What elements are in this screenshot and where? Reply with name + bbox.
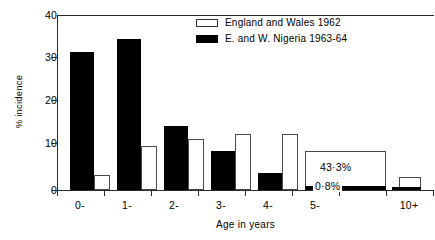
y-tick-mark-10	[51, 143, 57, 144]
bar-nigeria-6	[392, 187, 421, 190]
bar-england-1	[141, 146, 157, 190]
bar-nigeria-1	[117, 39, 141, 190]
x-tick-label-1: 1-	[107, 199, 147, 211]
x-tick-label-5: 5-	[295, 199, 335, 211]
y-tick-label-40: 40	[15, 10, 57, 20]
x-axis-title: Age in years	[57, 219, 434, 230]
y-axis-line	[57, 15, 58, 191]
bar-england-4	[282, 134, 298, 190]
x-tick-mark-3	[198, 190, 199, 196]
filled-square-icon	[196, 35, 218, 43]
x-tick-label-2: 2-	[154, 199, 194, 211]
annotation-nigeria-5: 0·8%	[313, 180, 342, 192]
x-tick-label-0: 0-	[60, 199, 100, 211]
x-tick-label-4: 4-	[248, 199, 288, 211]
y-tick-group-20: 20	[0, 95, 57, 105]
x-tick-mark-5	[292, 190, 293, 196]
open-square-icon	[196, 19, 218, 27]
y-tick-mark-30	[51, 57, 57, 58]
x-tick-label-6: 10+	[389, 199, 429, 211]
bar-england-0	[94, 175, 110, 190]
bar-nigeria-3	[211, 151, 235, 190]
x-tick-mark-origin	[57, 190, 58, 196]
bar-nigeria-0	[70, 52, 94, 190]
x-tick-mark-2	[151, 190, 152, 196]
bar-nigeria-4	[258, 173, 282, 190]
x-tick-mark-1	[104, 190, 105, 196]
x-tick-mark-end	[433, 190, 434, 196]
legend-label-england: England and Wales 1962	[225, 17, 341, 28]
y-tick-group-10: 10	[0, 138, 57, 148]
y-tick-group-0: 0	[0, 185, 57, 195]
annotation-england-5: 43·3%	[320, 161, 351, 173]
y-tick-mark-20	[51, 100, 57, 101]
bar-england-2	[188, 139, 204, 190]
x-tick-label-3: 3-	[201, 199, 241, 211]
y-tick-group-30: 30	[0, 52, 57, 62]
legend-label-nigeria: E. and W. Nigeria 1963-64	[225, 33, 347, 44]
bar-nigeria-2	[164, 126, 188, 190]
x-tick-mark-7	[386, 190, 387, 196]
bar-england-3	[235, 134, 251, 190]
legend-item-nigeria: E. and W. Nigeria 1963-64	[196, 32, 347, 45]
x-tick-mark-4	[245, 190, 246, 196]
legend-item-england: England and Wales 1962	[196, 16, 347, 29]
y-tick-group-40: 40	[0, 10, 57, 20]
legend: England and Wales 1962 E. and W. Nigeria…	[196, 16, 347, 48]
incidence-bar-chart: 0 10 20 30 40 % incidence 0- 1- 2- 3- 4-…	[0, 0, 435, 240]
y-axis-title: % incidence	[13, 62, 24, 142]
